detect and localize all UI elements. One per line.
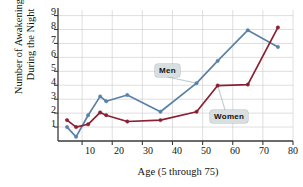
series-callout-women: Women (210, 110, 248, 123)
awakenings-line-chart: Number of Awakenings During the Night 9 … (0, 0, 303, 187)
plot-area (0, 0, 303, 187)
series-callout-men: Men (155, 64, 180, 77)
